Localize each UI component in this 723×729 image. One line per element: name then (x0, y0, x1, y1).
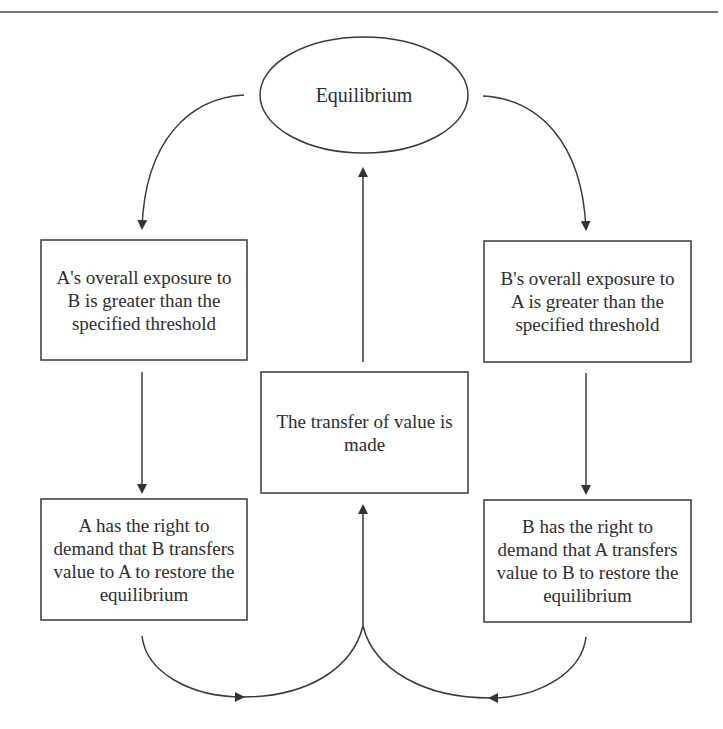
b-right-label: B has the right to demand that A transfe… (487, 503, 688, 619)
curve-a-right-to-merge-part1 (142, 636, 243, 697)
arrow-equilibrium-to-b-exposure (483, 96, 586, 229)
curve-b-right-to-merge-part2 (363, 626, 490, 698)
arrow-equilibrium-to-a-exposure (142, 95, 244, 228)
curve-b-right-to-merge-part1 (490, 637, 586, 698)
b-exposure-label: B's overall exposure to A is greater tha… (487, 244, 688, 359)
curve-a-right-to-merge-part2 (243, 626, 363, 697)
equilibrium-label: Equilibrium (264, 75, 464, 115)
a-exposure-label: A's overall exposure to B is greater tha… (44, 243, 244, 357)
a-right-label: A has the right to demand that B transfe… (44, 502, 244, 617)
transfer-label: The transfer of value is made (264, 375, 465, 490)
